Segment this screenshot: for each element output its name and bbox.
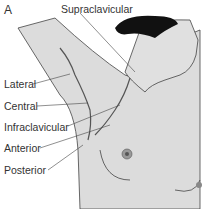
lymph-node-diagram: A Supraclavicular Lateral Central Infrac…: [0, 0, 209, 209]
label-infraclavicular: Infraclavicular: [4, 122, 69, 133]
label-anterior: Anterior: [4, 143, 41, 154]
label-lateral: Lateral: [4, 79, 36, 90]
panel-letter: A: [4, 3, 12, 17]
label-central: Central: [4, 101, 38, 112]
label-supraclavicular: Supraclavicular: [61, 4, 133, 15]
label-posterior: Posterior: [4, 165, 46, 176]
